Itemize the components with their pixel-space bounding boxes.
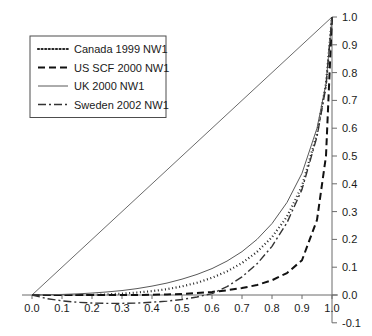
x-tick-label: 0.0 [24,302,39,314]
y-tick-label: 0.9 [342,39,357,51]
legend-entry-label: Sweden 2002 NW1 [74,99,169,111]
x-tick-label: 1.0 [324,302,339,314]
y-tick-label: 0.0 [342,289,357,301]
y-tick-label: 0.2 [342,233,357,245]
x-tick-label: 0.8 [264,302,279,314]
x-tick-label: 0.1 [54,302,69,314]
chart-legend: Canada 1999 NW1US SCF 2000 NW1UK 2000 NW… [30,36,169,118]
x-tick-label: 0.5 [174,302,189,314]
x-axis-ticks: 0.00.10.20.30.40.50.60.70.80.91.0 [24,295,339,314]
legend-entry-label: Canada 1999 NW1 [74,43,168,55]
y-tick-label: 1.0 [342,11,357,23]
lorenz-curve-chart: 0.00.10.20.30.40.50.60.70.80.91.0 1.00.9… [0,0,372,336]
x-tick-label: 0.4 [144,302,159,314]
y-tick-label: 0.4 [342,178,357,190]
legend-entry-label: US SCF 2000 NW1 [74,62,169,74]
y-tick-label: 0.8 [342,67,357,79]
y-tick-label: 0.3 [342,206,357,218]
x-tick-label: 0.6 [204,302,219,314]
y-axis-ticks: 1.00.90.80.70.60.50.40.30.20.10.0-0.1 [332,11,361,329]
y-tick-label: 0.7 [342,94,357,106]
x-tick-label: 0.7 [234,302,249,314]
y-tick-label: -0.1 [342,317,361,329]
y-tick-label: 0.6 [342,122,357,134]
chart-canvas: 0.00.10.20.30.40.50.60.70.80.91.0 1.00.9… [0,0,372,336]
legend-entry-label: UK 2000 NW1 [74,80,144,92]
y-tick-label: 0.5 [342,150,357,162]
y-tick-label: 0.1 [342,261,357,273]
x-tick-label: 0.9 [294,302,309,314]
